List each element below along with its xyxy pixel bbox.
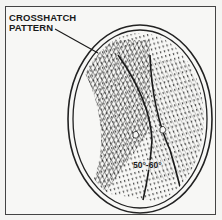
crosshatch-pattern-label: CROSSHATCH PATTERN (9, 13, 76, 33)
label-line-2: PATTERN (9, 23, 76, 33)
angle-label: 50°-60° (133, 160, 162, 170)
bore-illustration (0, 0, 222, 220)
